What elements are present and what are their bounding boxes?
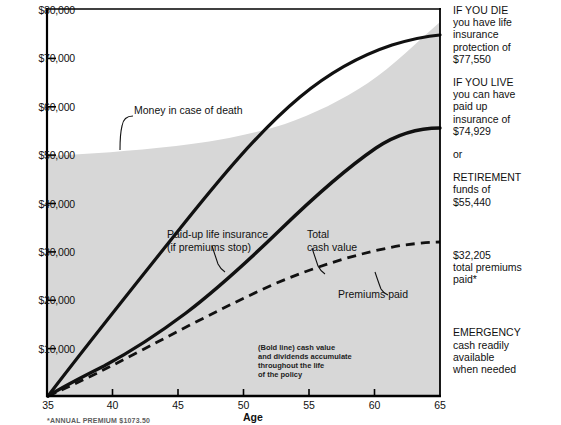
side-spacer-2 bbox=[453, 296, 561, 326]
leader-death bbox=[120, 116, 133, 150]
side-premium-line1: total premiums bbox=[453, 261, 561, 273]
annotation-total-cash-value-line1: Total bbox=[307, 228, 329, 241]
y-tick-label-70000: $70,000 bbox=[38, 52, 75, 64]
side-or-separator: or bbox=[453, 148, 561, 160]
x-tick-label-45: 45 bbox=[172, 399, 184, 411]
side-retirement-amount: $55,440 bbox=[453, 196, 561, 208]
y-tick-label-30000: $30,000 bbox=[38, 246, 75, 258]
side-retirement-line1: funds of bbox=[453, 183, 561, 195]
x-axis-title: Age bbox=[243, 411, 263, 423]
side-emergency-heading: EMERGENCY bbox=[453, 326, 561, 338]
annotation-money-in-case-of-death: Money in case of death bbox=[134, 104, 243, 117]
side-live-line1: you can have bbox=[453, 88, 561, 100]
chart-figure: $80,000 $70,000 $60,000 $50,000 $40,000 … bbox=[0, 0, 561, 425]
side-block-if-you-die: IF YOU DIE you have life insurance prote… bbox=[453, 4, 561, 65]
y-tick-label-20000: $20,000 bbox=[38, 294, 75, 306]
y-tick-label-80000: $80,000 bbox=[38, 4, 75, 16]
side-die-line3: protection of bbox=[453, 41, 561, 53]
y-tick-label-60000: $60,000 bbox=[38, 101, 75, 113]
side-die-heading: IF YOU DIE bbox=[453, 4, 561, 16]
side-retirement-heading: RETIREMENT bbox=[453, 171, 561, 183]
side-block-retirement: RETIREMENT funds of $55,440 bbox=[453, 171, 561, 208]
side-spacer bbox=[453, 219, 561, 249]
side-live-heading: IF YOU LIVE bbox=[453, 76, 561, 88]
side-block-total-premiums: $32,205 total premiums paid* bbox=[453, 249, 561, 286]
x-tick-label-55: 55 bbox=[303, 399, 315, 411]
side-panel: IF YOU DIE you have life insurance prote… bbox=[453, 4, 561, 386]
x-tick-label-65: 65 bbox=[434, 399, 446, 411]
side-block-emergency: EMERGENCY cash readily available when ne… bbox=[453, 326, 561, 375]
annotation-note-line1: (Bold line) cash value bbox=[258, 343, 335, 352]
annotation-note-line4: of the policy bbox=[258, 370, 302, 379]
side-live-amount: $74,929 bbox=[453, 125, 561, 137]
y-tick-label-10000: $10,000 bbox=[38, 343, 75, 355]
annotation-paid-up-line1: Paid-up life insurance bbox=[167, 228, 268, 241]
x-tick-label-40: 40 bbox=[107, 399, 119, 411]
annotation-note-line2: and dividends accumulate bbox=[258, 352, 352, 361]
x-tick-label-50: 50 bbox=[238, 399, 250, 411]
side-die-line1: you have life bbox=[453, 16, 561, 28]
annotation-total-cash-value-line2: cash value bbox=[307, 241, 357, 254]
area-money-in-case-of-death bbox=[47, 22, 440, 397]
side-emergency-line2: available bbox=[453, 351, 561, 363]
y-tick-label-50000: $50,000 bbox=[38, 149, 75, 161]
y-tick-label-40000: $40,000 bbox=[38, 198, 75, 210]
footnote-annual-premium: *ANNUAL PREMIUM $1073.50 bbox=[47, 417, 150, 424]
side-premium-amount: $32,205 bbox=[453, 249, 561, 261]
side-die-line2: insurance bbox=[453, 28, 561, 40]
side-die-amount: $77,550 bbox=[453, 53, 561, 65]
side-live-line2: paid up bbox=[453, 100, 561, 112]
side-premium-line2: paid* bbox=[453, 273, 561, 285]
x-tick-label-35: 35 bbox=[42, 399, 54, 411]
annotation-note-line3: throughout the life bbox=[258, 361, 324, 370]
annotation-paid-up-line2: (if premiums stop) bbox=[167, 241, 251, 254]
side-block-if-you-live: IF YOU LIVE you can have paid up insuran… bbox=[453, 76, 561, 137]
annotation-premiums-paid: Premiums paid bbox=[338, 288, 408, 301]
side-live-line3: insurance of bbox=[453, 113, 561, 125]
x-tick-label-60: 60 bbox=[369, 399, 381, 411]
side-emergency-line3: when needed bbox=[453, 363, 561, 375]
side-emergency-line1: cash readily bbox=[453, 339, 561, 351]
